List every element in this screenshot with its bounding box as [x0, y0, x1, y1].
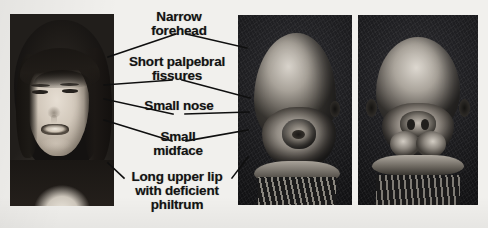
ear-pit-left	[366, 99, 377, 117]
neck-region	[376, 175, 460, 205]
label-long-upper-lip: Long upper lipwith deficientphiltrum	[114, 170, 240, 212]
label-line: Small nose	[120, 99, 238, 113]
label-line: Narrow	[120, 10, 238, 24]
label-line: Short palpebral	[114, 55, 240, 69]
nostril-left	[407, 119, 415, 130]
label-line: fissures	[114, 69, 240, 83]
clinical-photograph-panel	[10, 14, 114, 206]
label-narrow-forehead: Narrowforehead	[120, 10, 238, 38]
label-small-midface: Smallmidface	[126, 130, 230, 158]
ear-pit	[330, 101, 340, 117]
eye-left	[32, 90, 48, 94]
label-short-palpebral-fissures: Short palpebralfissures	[114, 55, 240, 83]
ear-pit-right	[459, 99, 470, 117]
neck-region	[258, 177, 336, 205]
label-line: midface	[126, 144, 230, 158]
label-small-nose: Small nose	[120, 99, 238, 113]
label-line: with deficient	[114, 184, 240, 198]
maxillary-prominence-right	[416, 131, 446, 157]
eye-right	[62, 89, 78, 93]
sem-micrograph-frontal-panel	[358, 15, 478, 205]
eyebrow-left	[31, 84, 50, 87]
label-line: forehead	[120, 24, 238, 38]
figure-container: Narrowforehead Short palpebralfissures S…	[0, 0, 488, 228]
label-line: philtrum	[114, 198, 240, 212]
chin	[38, 138, 74, 156]
sem-micrograph-oblique-panel	[238, 15, 352, 205]
mouth	[41, 124, 69, 135]
label-line: Small	[126, 130, 230, 144]
nostril-right	[421, 119, 429, 130]
label-line: Long upper lip	[114, 170, 240, 184]
mandible	[372, 155, 464, 175]
philtrum	[51, 115, 57, 124]
eyebrow-right	[60, 83, 79, 86]
shoulders-and-collar	[10, 160, 114, 206]
nostril	[292, 130, 305, 139]
